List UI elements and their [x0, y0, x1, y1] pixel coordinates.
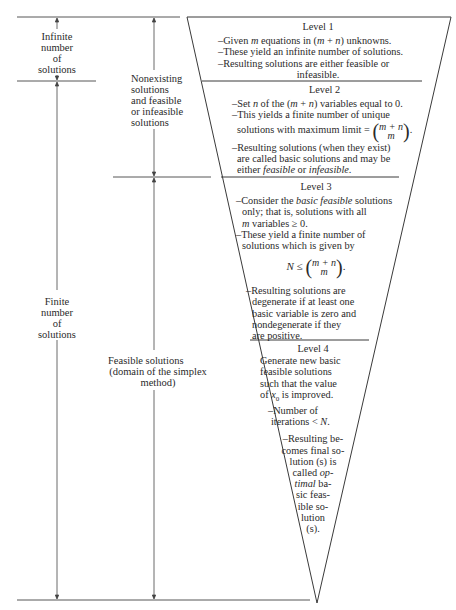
label-finite-solutions: Finite number of solutions: [30, 296, 84, 340]
label-line: Feasible solutions: [106, 355, 210, 366]
level-1-item: –These yield an infinite number of solut…: [218, 46, 418, 57]
label-line: method): [106, 377, 210, 388]
binomial: m + nm: [379, 122, 403, 140]
level-4-title: Level 4: [258, 343, 368, 354]
level-3-title: Level 3: [236, 181, 396, 192]
label-line: (domain of the simplex: [106, 366, 210, 377]
level-3-item: –These yield a finite number of solution…: [236, 229, 396, 251]
level-2-item: –Set n of the (m + n) variables equal to…: [232, 98, 417, 109]
level-1-item: –Resulting solutions are either feasible…: [218, 58, 418, 69]
binomial: m + nm: [312, 258, 336, 276]
level-1-box: Level 1 –Given m equations in (m + n) un…: [218, 21, 418, 80]
level-1-title: Level 1: [218, 21, 418, 32]
label-line: solutions: [131, 84, 197, 95]
label-line: solutions: [131, 117, 197, 128]
label-line: solutions: [30, 64, 84, 75]
level-1-item: –Given m equations in (m + n) unknowns.: [218, 35, 418, 46]
level-1-item: infeasible.: [218, 69, 418, 80]
label-line: of: [30, 318, 84, 329]
label-line: and feasible: [131, 95, 197, 106]
label-line: or infeasible: [131, 106, 197, 117]
level-3-item: –Consider the basic feasible solutions o…: [236, 195, 396, 229]
level-3-item: –Resulting solutions are degenerate if a…: [236, 285, 396, 341]
label-feasible-solutions: Feasible solutions (domain of the simple…: [106, 355, 210, 388]
label-nonexisting-solutions: Nonexisting solutions and feasible or in…: [131, 73, 197, 128]
level-4-item: Generate new basic feasible solutions su…: [258, 355, 368, 405]
label-line: number: [30, 307, 84, 318]
label-line: Nonexisting: [131, 73, 197, 84]
label-line: solutions: [30, 329, 84, 340]
finite-range-arrow: [55, 82, 58, 599]
level-3-box: Level 3 –Consider the basic feasible sol…: [236, 181, 396, 341]
level-3-formula: N ≤ (m + nm).: [236, 257, 396, 277]
level-2-item: –Resulting solutions (when they exist) a…: [232, 142, 417, 176]
level-2-title: Level 2: [232, 84, 417, 95]
label-line: Infinite: [30, 31, 84, 42]
feasible-range-arrow: [152, 178, 155, 599]
label-line: of: [30, 53, 84, 64]
level-4-box: Level 4 Generate new basic feasible solu…: [258, 343, 368, 534]
label-line: Finite: [30, 296, 84, 307]
level-2-item: –This yields a finite number of unique s…: [232, 109, 417, 140]
level-2-box: Level 2 –Set n of the (m + n) variables …: [232, 84, 417, 175]
level-4-item: –Number of iterations < N.: [258, 405, 368, 427]
label-infinite-solutions: Infinite number of solutions: [30, 31, 84, 75]
label-line: number: [30, 42, 84, 53]
level-4-item: –Resulting be- comes final so- lution (s…: [271, 433, 355, 534]
